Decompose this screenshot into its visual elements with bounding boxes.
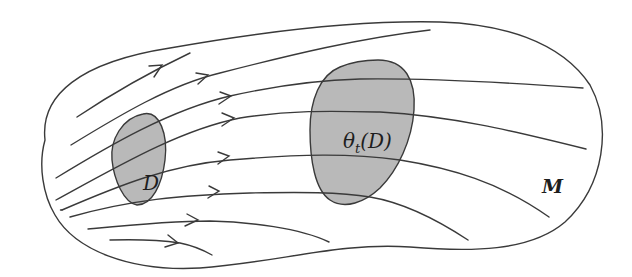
label-arg-D: (D) (360, 129, 392, 153)
flow-line-7 (88, 221, 329, 242)
flow-line-8 (110, 240, 212, 255)
label-region-theta-t-D: θt(D) (343, 131, 392, 151)
flow-diagram (0, 0, 632, 277)
arrow-icon-6 (208, 186, 219, 198)
arrow-icon-7 (185, 214, 198, 226)
arrow-icon-5 (218, 152, 229, 164)
flow-line-1 (77, 53, 190, 117)
label-subscript-t: t (355, 141, 360, 156)
label-manifold-M: M (542, 177, 563, 196)
label-theta: θ (343, 129, 355, 153)
arrow-icon-4 (222, 113, 234, 126)
label-region-D: D (143, 173, 159, 193)
